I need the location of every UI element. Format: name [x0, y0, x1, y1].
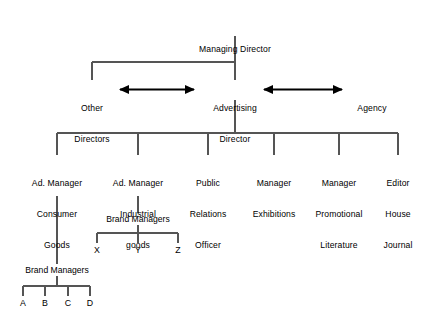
node-brand-b: B: [42, 298, 48, 308]
node-manager-exhibitions: Manager Exhibitions: [253, 157, 296, 240]
node-public-relations-officer: Public Relations Officer: [190, 157, 227, 271]
node-brand-b-label: B: [42, 298, 48, 308]
node-dept-6-line3: Journal: [384, 240, 413, 250]
node-brand-managers-industrial: Brand Managers: [106, 214, 170, 224]
node-dept-4-line2: Exhibitions: [253, 209, 296, 219]
node-brand-c: C: [65, 298, 71, 308]
node-dept-3-line2: Relations: [190, 209, 227, 219]
node-dept-5-line2: Promotional: [316, 209, 363, 219]
node-dept-1-line1: Ad. Manager: [32, 178, 82, 188]
node-ad-manager-consumer-goods: Ad. Manager Consumer Goods: [32, 157, 82, 271]
node-manager-promotional-literature: Manager Promotional Literature: [316, 157, 363, 271]
node-dept-6-line2: House: [384, 209, 413, 219]
node-brand-x-label: X: [94, 245, 100, 255]
node-dept-3-line1: Public: [190, 178, 227, 188]
node-agency-label: Agency: [357, 103, 386, 113]
node-brand-d: D: [87, 298, 93, 308]
node-managing-director: Managing Director: [199, 23, 271, 75]
node-other-directors-line1: Other: [74, 103, 109, 113]
node-advertising-director: Advertising Director: [213, 82, 257, 165]
node-brand-managers-consumer: Brand Managers: [25, 265, 89, 275]
node-brand-managers-consumer-label: Brand Managers: [25, 265, 89, 275]
node-dept-5-line1: Manager: [316, 178, 363, 188]
node-brand-c-label: C: [65, 298, 71, 308]
node-managing-director-label: Managing Director: [199, 44, 271, 54]
node-dept-1-line3: Goods: [32, 240, 82, 250]
node-brand-a-label: A: [20, 298, 26, 308]
node-brand-y: Y: [135, 245, 141, 255]
node-brand-d-label: D: [87, 298, 93, 308]
node-brand-z-label: Z: [175, 245, 180, 255]
node-dept-4-line1: Manager: [253, 178, 296, 188]
node-dept-6-line1: Editor: [384, 178, 413, 188]
node-brand-managers-industrial-label: Brand Managers: [106, 214, 170, 224]
node-advertising-director-line1: Advertising: [213, 103, 257, 113]
node-other-directors: Other Directors: [74, 82, 109, 165]
node-advertising-director-line2: Director: [213, 134, 257, 144]
node-brand-a: A: [20, 298, 26, 308]
node-brand-z: Z: [175, 245, 180, 255]
node-dept-1-line2: Consumer: [32, 209, 82, 219]
node-dept-5-line3: Literature: [316, 240, 363, 250]
node-editor-house-journal: Editor House Journal: [384, 157, 413, 271]
node-agency: Agency: [357, 82, 386, 134]
node-other-directors-line2: Directors: [74, 134, 109, 144]
node-brand-x: X: [94, 245, 100, 255]
node-brand-y-label: Y: [135, 245, 141, 255]
node-dept-2-line1: Ad. Manager: [113, 178, 163, 188]
node-dept-3-line3: Officer: [190, 240, 227, 250]
org-chart-diagram: Managing Director Other Directors Advert…: [0, 0, 435, 318]
